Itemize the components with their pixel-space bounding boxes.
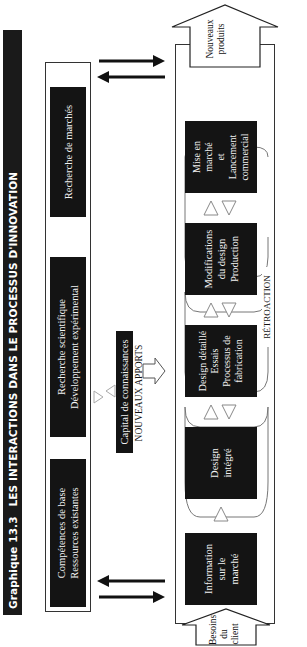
box-line: et (215, 153, 227, 160)
box-line: Capital de connaissances (118, 340, 131, 445)
box-line: fabrication (233, 339, 245, 382)
label-line: client (230, 623, 241, 645)
label-line: Nouveaux (205, 19, 216, 59)
left-bidirectional-arrows-icon (97, 565, 167, 605)
box-line: Production (228, 236, 241, 282)
figure-title-text: LES INTERACTIONS DANS LE PROCESSUS D'INN… (7, 172, 19, 507)
label-line: du (219, 623, 230, 645)
new-inputs-arrow-icon (143, 356, 167, 384)
box-line: Modifications (202, 230, 215, 289)
right-bidirectional-arrows-icon (97, 45, 167, 85)
feedback-label: RÉTROACTION (262, 267, 272, 347)
box-line: Recherche scientifique (55, 299, 68, 395)
step-design-modifications: Modifications du design Production (185, 223, 257, 295)
figure-number: Graphique 13.3 (7, 516, 19, 609)
box-line: Compétences de base (55, 488, 68, 578)
box-market-research: Recherche de marchés (50, 87, 86, 217)
flow-triangles-icon (203, 199, 237, 217)
flow-triangle-icon (213, 505, 229, 523)
step-market-information: Information sur le marché (185, 533, 257, 605)
box-line: du design (215, 239, 228, 280)
box-line: marché (228, 554, 241, 585)
box-line: Recherche de marchés (62, 105, 75, 199)
box-line: Information (202, 544, 215, 594)
exchange-triangles-icon (94, 381, 116, 405)
step-integrated-design: Design intégré (185, 427, 257, 499)
box-line: Développement expérimental (68, 285, 81, 409)
step-market-launch: Mise en marché et Lancement commercial (185, 121, 257, 193)
box-line: Mise en (191, 141, 203, 173)
box-line: intégré (221, 448, 234, 477)
box-line: commercial (239, 133, 251, 180)
client-needs-label: Besoins du client (208, 623, 241, 645)
box-line: sur le (215, 557, 228, 580)
box-line: marché (203, 142, 215, 171)
box-line: Processus de (221, 335, 233, 386)
box-scientific-research: Recherche scientifique Développement exp… (50, 257, 86, 437)
step-detailed-design: Design détaillé Essais Processus de fabr… (185, 325, 257, 397)
box-line: Ressources existantes (68, 487, 81, 578)
flow-triangles-icon (203, 301, 237, 319)
flow-triangles-icon (203, 403, 237, 421)
box-line: Lancement (227, 135, 239, 179)
box-line: Design (208, 448, 221, 478)
figure-title: Graphique 13.3 LES INTERACTIONS DANS LE … (3, 30, 22, 615)
box-knowledge-capital: Capital de connaissances (116, 331, 133, 453)
label-line: Besoins (208, 623, 219, 645)
box-core-competencies: Compétences de base Ressources existante… (50, 459, 86, 607)
box-line: Design détaillé (197, 331, 209, 391)
box-line: Essais (209, 349, 221, 374)
innovation-process-diagram: Graphique 13.3 LES INTERACTIONS DANS LE … (0, 0, 307, 647)
label-line: produits (216, 19, 227, 59)
new-inputs-label: NOUVEAUX APPORTS (134, 333, 144, 453)
new-products-label: Nouveaux produits (205, 19, 227, 59)
